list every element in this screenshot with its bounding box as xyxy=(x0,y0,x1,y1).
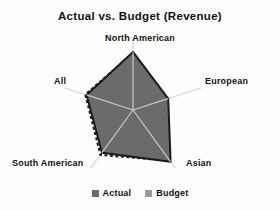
legend-label-budget: Budget xyxy=(156,188,188,198)
axis-label-european: European xyxy=(205,76,248,86)
radar-plot xyxy=(0,0,280,210)
axis-label-asian: Asian xyxy=(186,158,212,168)
axis-label-all: All xyxy=(54,76,66,86)
legend-label-actual: Actual xyxy=(103,188,132,198)
chart-legend: Actual Budget xyxy=(0,188,280,198)
legend-swatch-budget xyxy=(145,190,152,197)
radar-chart-container: Actual vs. Budget (Revenue) North Americ… xyxy=(0,0,280,210)
axis-label-north-american: North American xyxy=(0,33,280,43)
axis-label-south-american: South American xyxy=(12,158,83,168)
legend-swatch-actual xyxy=(92,190,99,197)
legend-item-actual: Actual xyxy=(92,188,132,198)
legend-item-budget: Budget xyxy=(145,188,188,198)
